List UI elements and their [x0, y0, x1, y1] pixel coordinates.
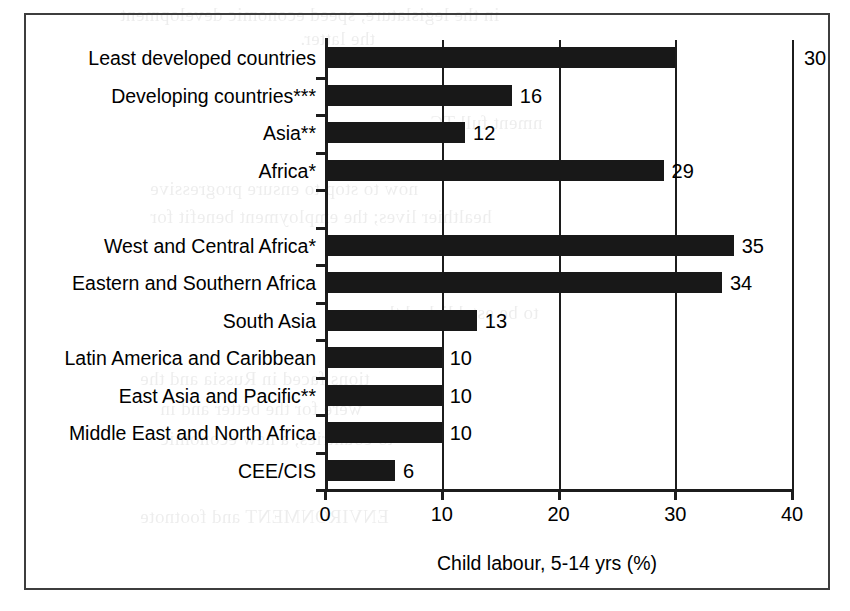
x-axis-title: Child labour, 5-14 yrs (%)	[0, 552, 850, 575]
bar	[325, 347, 442, 368]
x-tick-label-0: 0	[295, 503, 355, 526]
bar-value-label: 10	[450, 423, 472, 444]
gridline-20	[559, 40, 561, 490]
y-tick-8	[316, 377, 326, 380]
category-label: Latin America and Caribbean	[65, 348, 317, 369]
category-label: CEE/CIS	[238, 461, 316, 482]
bar-value-label: 13	[485, 311, 507, 332]
category-label: Africa*	[259, 161, 316, 182]
x-tick-40	[791, 489, 794, 500]
category-label: Asia**	[263, 123, 316, 144]
x-tick-20	[558, 489, 561, 500]
bar-value-label: 34	[730, 273, 752, 294]
bar-value-label: 10	[450, 386, 472, 407]
gridline-10	[442, 40, 444, 490]
category-label: South Asia	[223, 311, 316, 332]
bar-value-label: 35	[742, 236, 764, 257]
bar	[325, 85, 512, 106]
y-tick-9	[316, 414, 326, 417]
bar-value-label: 29	[672, 161, 694, 182]
category-label: East Asia and Pacific**	[119, 386, 316, 407]
category-label: Least developed countries	[88, 48, 316, 69]
gridline-40	[792, 40, 794, 490]
category-label: Eastern and Southern Africa	[72, 273, 316, 294]
bar	[325, 235, 734, 256]
x-tick-10	[441, 489, 444, 500]
y-tick-6	[316, 302, 326, 305]
x-tick-30	[674, 489, 677, 500]
y-tick-0	[316, 77, 326, 80]
x-tick-label-40: 40	[762, 503, 822, 526]
y-tick-4	[316, 227, 326, 230]
x-tick-label-20: 20	[529, 503, 589, 526]
y-tick-7	[316, 339, 326, 342]
bar	[325, 422, 442, 443]
bar-value-label: 30	[804, 48, 826, 69]
gridline-30	[675, 40, 677, 490]
bar-value-label: 10	[450, 348, 472, 369]
category-label: Middle East and North Africa	[69, 423, 316, 444]
y-tick-10	[316, 452, 326, 455]
bar	[325, 460, 395, 481]
y-tick-3	[316, 189, 326, 192]
bar-value-label: 16	[520, 86, 542, 107]
x-tick-label-30: 30	[645, 503, 705, 526]
bar	[325, 310, 477, 331]
category-label: Developing countries***	[111, 86, 316, 107]
bar	[325, 272, 722, 293]
x-axis-title-text: Child labour, 5-14 yrs (%)	[437, 552, 657, 574]
y-tick-1	[316, 114, 326, 117]
bar	[325, 385, 442, 406]
bar-value-label: 12	[473, 123, 495, 144]
bar-value-label: 6	[403, 461, 414, 482]
bar	[325, 160, 664, 181]
y-tick-11	[316, 489, 326, 492]
x-tick-label-10: 10	[412, 503, 472, 526]
y-tick-5	[316, 264, 326, 267]
bar	[325, 47, 675, 68]
category-label: West and Central Africa*	[104, 236, 316, 257]
bar	[325, 122, 465, 143]
y-tick-2	[316, 152, 326, 155]
